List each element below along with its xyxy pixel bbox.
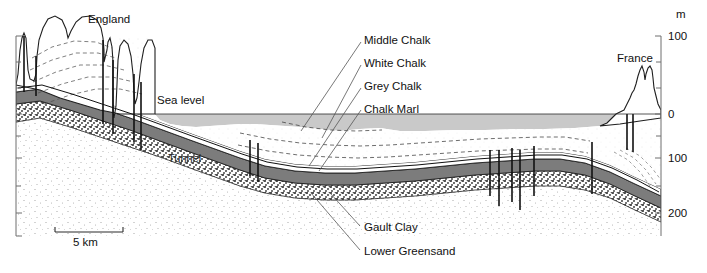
cross-section-drawing [0,0,707,273]
axis-tick-0: 0 [668,108,674,120]
label-chalk-marl: Chalk Marl [364,103,419,115]
label-grey-chalk: Grey Chalk [364,80,422,92]
axis-unit-label: m [676,8,686,20]
label-tunnel: Tunnel [168,152,201,164]
label-white-chalk: White Chalk [364,57,426,69]
axis-tick-200-below: 200 [668,207,687,219]
axis-tick-100-below: 100 [668,152,687,164]
label-france: France [617,52,653,64]
axis-tick-100-above: 100 [668,30,687,42]
scale-bar-label: 5 km [73,236,98,248]
label-gault-clay: Gault Clay [364,221,418,233]
label-england: England [88,13,130,25]
figure-canvas: England France Sea level Tunnel Middle C… [0,0,707,273]
label-middle-chalk: Middle Chalk [364,34,430,46]
label-sea-level: Sea level [157,94,204,106]
label-lower-greensand: Lower Greensand [364,245,455,257]
